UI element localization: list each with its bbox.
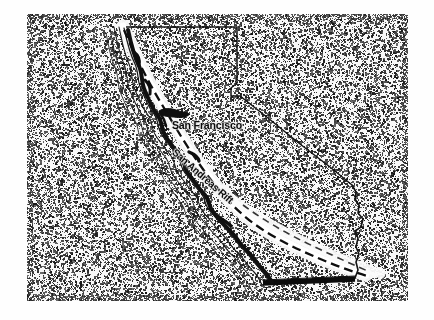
map-figure: San Francisco San Andreas Rift bbox=[0, 0, 434, 320]
halftone-texture bbox=[27, 14, 408, 301]
stippled-halftone-panel bbox=[27, 14, 408, 301]
label-san-francisco: San Francisco bbox=[172, 119, 242, 131]
